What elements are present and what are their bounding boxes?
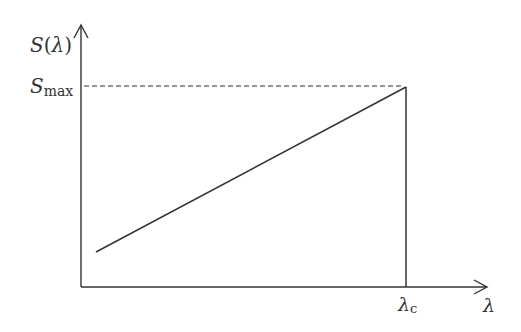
smax-label: Smax	[30, 74, 73, 99]
y-axis-label: S(λ)	[30, 33, 72, 57]
x-axis-label: λ	[482, 294, 495, 316]
spectrum-rising-line	[96, 87, 406, 252]
diagram-canvas: S(λ) Smax λc λ	[0, 0, 521, 332]
lambda-c-label: λc	[397, 293, 417, 316]
